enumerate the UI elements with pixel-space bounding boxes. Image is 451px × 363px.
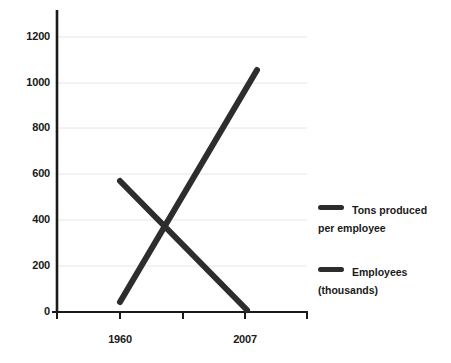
x-tick-label-2007: 2007 <box>220 333 270 345</box>
y-tick-label-1200: 1200 <box>4 31 50 42</box>
y-tick-label-1000: 1000 <box>4 77 50 88</box>
y-tick-label-0: 0 <box>4 306 50 317</box>
legend-swatch-icon <box>318 205 344 210</box>
y-axis-tick-labels: 1200 1000 800 600 400 200 0 <box>0 0 50 363</box>
series-line-tons-produced-per-employee <box>120 70 257 302</box>
legend-item-tons-produced-per-employee[interactable]: Tons produced per employee <box>318 200 451 236</box>
gridlines <box>57 37 307 266</box>
y-tick-label-200: 200 <box>4 260 50 271</box>
x-tick-label-1960: 1960 <box>95 333 145 345</box>
chart-legend: Tons produced per employee Employees (th… <box>318 200 451 318</box>
y-tick-label-600: 600 <box>4 168 50 179</box>
y-tick-label-400: 400 <box>4 214 50 225</box>
legend-swatch-icon <box>318 267 344 272</box>
line-chart: 1200 1000 800 600 400 200 0 1960 2007 To… <box>0 0 451 363</box>
y-tick-label-800: 800 <box>4 122 50 133</box>
legend-item-employees-thousands[interactable]: Employees (thousands) <box>318 262 451 298</box>
